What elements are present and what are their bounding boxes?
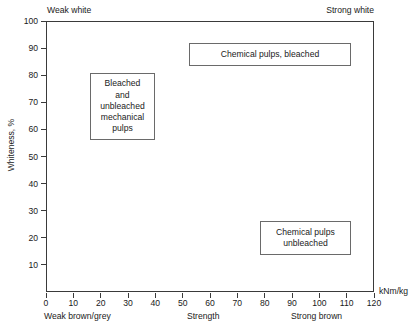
region-label-chemical-pulps-unbleached: Chemical pulpsunbleached bbox=[260, 221, 351, 255]
y-axis-tick-label: 90 bbox=[12, 43, 38, 53]
region-label-line: mechanical bbox=[100, 112, 144, 123]
y-axis-tick-label: 10 bbox=[12, 260, 38, 270]
annotation-bottom-left: Weak brown/grey bbox=[44, 311, 111, 321]
y-axis-tick-label: 100 bbox=[12, 16, 38, 26]
region-label-text: Chemical pulpsunbleached bbox=[276, 227, 335, 249]
x-axis-tick-label: 60 bbox=[197, 298, 223, 308]
x-axis-tick-label: 110 bbox=[334, 298, 360, 308]
region-label-text: Bleachedandunbleachedmechanicalpulps bbox=[100, 78, 144, 134]
x-axis-tick-label: 90 bbox=[279, 298, 305, 308]
y-axis-tick-label: 20 bbox=[12, 233, 38, 243]
y-axis-tick bbox=[41, 210, 46, 211]
y-axis-tick bbox=[41, 156, 46, 157]
x-axis-tick-label: 20 bbox=[88, 298, 114, 308]
region-label-line: Chemical pulps, bleached bbox=[221, 49, 319, 60]
x-axis-tick-label: 30 bbox=[115, 298, 141, 308]
x-axis-tick-label: 0 bbox=[33, 298, 59, 308]
x-axis-tick-label: 40 bbox=[142, 298, 168, 308]
x-axis-tick-label: 50 bbox=[170, 298, 196, 308]
y-axis-tick bbox=[41, 264, 46, 265]
y-axis-tick bbox=[41, 102, 46, 103]
x-axis-tick-label: 10 bbox=[60, 298, 86, 308]
pulp-whiteness-strength-chart: Weak white Strong white 0102030405060708… bbox=[0, 0, 417, 334]
y-axis-tick bbox=[41, 75, 46, 76]
region-label-line: and bbox=[100, 90, 144, 101]
x-axis-title: Strength bbox=[187, 311, 220, 321]
annotation-top-left: Weak white bbox=[47, 5, 91, 15]
region-label-mechanical-pulps: Bleachedandunbleachedmechanicalpulps bbox=[90, 73, 155, 140]
region-label-line: Chemical pulps bbox=[276, 227, 335, 238]
y-axis-tick bbox=[41, 183, 46, 184]
annotation-top-right: Strong white bbox=[326, 5, 374, 15]
x-axis-tick-label: 120 bbox=[361, 298, 387, 308]
region-label-line: unbleached bbox=[100, 101, 144, 112]
region-label-line: pulps bbox=[100, 123, 144, 134]
y-axis-tick-label: 80 bbox=[12, 70, 38, 80]
x-axis-tick-label: 70 bbox=[224, 298, 250, 308]
annotation-bottom-right: Strong brown bbox=[291, 311, 342, 321]
y-axis-tick bbox=[41, 129, 46, 130]
region-label-text: Chemical pulps, bleached bbox=[221, 49, 319, 60]
x-axis-tick-label: 100 bbox=[306, 298, 332, 308]
y-axis-tick bbox=[41, 21, 46, 22]
y-axis-title: Whiteness, % bbox=[6, 100, 16, 190]
x-axis-unit-label: kNm/kg bbox=[379, 286, 408, 296]
x-axis-tick-label: 80 bbox=[252, 298, 278, 308]
region-label-line: unbleached bbox=[276, 238, 335, 249]
region-label-line: Bleached bbox=[100, 78, 144, 89]
y-axis-tick-label: 30 bbox=[12, 206, 38, 216]
y-axis-tick bbox=[41, 48, 46, 49]
region-label-chemical-pulps-bleached: Chemical pulps, bleached bbox=[189, 43, 351, 66]
y-axis-tick bbox=[41, 237, 46, 238]
